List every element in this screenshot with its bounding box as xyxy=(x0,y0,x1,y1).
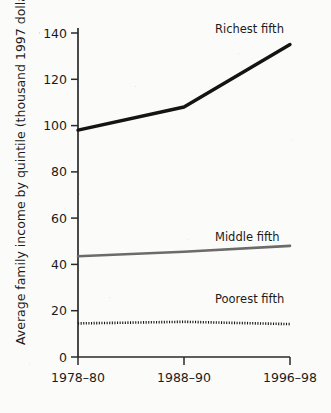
x-axis-tick-labels: 1978–80 1988–90 1996–98 xyxy=(51,370,317,385)
series-label-poorest-fifth: Poorest fifth xyxy=(215,292,284,306)
y-tick-label-140: 140 xyxy=(43,26,67,41)
x-tick-label-2: 1988–90 xyxy=(157,370,211,385)
y-tick-label-20: 20 xyxy=(51,303,67,318)
y-tick-label-120: 120 xyxy=(43,72,67,87)
y-tick-label-40: 40 xyxy=(51,257,67,272)
series-line-poorest-fifth xyxy=(78,322,290,324)
y-axis-ticks xyxy=(71,33,78,357)
y-tick-label-100: 100 xyxy=(43,118,67,133)
series-label-richest-fifth: Richest fifth xyxy=(215,22,284,36)
series-line-middle-fifth xyxy=(78,246,290,256)
x-tick-label-1: 1978–80 xyxy=(51,370,105,385)
x-axis-ticks xyxy=(78,357,290,365)
y-tick-label-0: 0 xyxy=(59,350,67,365)
series-line-richest-fifth xyxy=(78,45,290,131)
y-tick-label-80: 80 xyxy=(51,164,67,179)
line-chart: 0 20 40 60 80 100 120 140 1978–80 1988–9… xyxy=(0,0,331,413)
series-label-middle-fifth: Middle fifth xyxy=(215,230,280,244)
y-axis-title: Average family income by quintile (thous… xyxy=(13,0,28,345)
x-tick-label-3: 1996–98 xyxy=(263,370,317,385)
chart-page: 0 20 40 60 80 100 120 140 1978–80 1988–9… xyxy=(0,0,331,413)
y-axis-tick-labels: 0 20 40 60 80 100 120 140 xyxy=(43,26,67,365)
y-tick-label-60: 60 xyxy=(51,211,67,226)
